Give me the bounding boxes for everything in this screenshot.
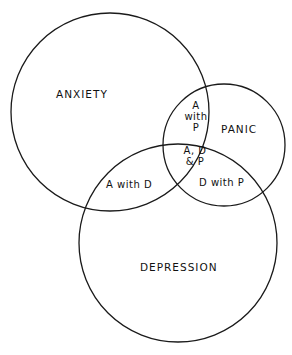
panic-label: PANIC — [221, 124, 257, 135]
anxiety-depression-label: A with D — [106, 179, 152, 190]
anxiety-panic-line-1: A — [183, 100, 209, 111]
depression-panic-label: D with P — [199, 177, 244, 188]
anxiety-label: ANXIETY — [56, 89, 108, 100]
depression-circle — [79, 144, 277, 342]
all-three-line-1: A, D — [173, 145, 217, 156]
venn-diagram — [0, 0, 292, 355]
anxiety-panic-line-3: P — [183, 122, 209, 133]
anxiety-panic-label: A with P — [183, 100, 209, 133]
depression-label: DEPRESSION — [140, 262, 218, 273]
all-three-label: A, D & P — [173, 145, 217, 167]
all-three-line-2: & P — [173, 156, 217, 167]
anxiety-panic-line-2: with — [183, 111, 209, 122]
